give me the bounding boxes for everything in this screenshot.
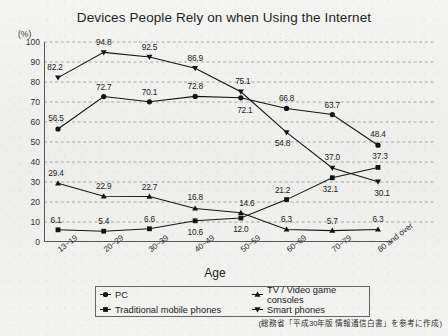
source-attribution: (総務省「平成30年版 情報通信白書」を参考に作成) bbox=[258, 317, 442, 328]
circle-marker-icon bbox=[100, 290, 111, 299]
chart-title: Devices People Rely on when Using the In… bbox=[0, 10, 448, 25]
legend-item-2[interactable]: Traditional mobile phones bbox=[100, 302, 252, 317]
y-tick-50: 50 bbox=[14, 137, 40, 147]
legend-item-1[interactable]: TV / Video game consoles bbox=[252, 287, 375, 302]
y-tick-90: 90 bbox=[14, 57, 40, 67]
y-tick-10: 10 bbox=[14, 217, 40, 227]
chart-legend: PCTV / Video game consolesTraditional mo… bbox=[95, 286, 370, 317]
axis-frame bbox=[44, 42, 392, 242]
legend-label-0: PC bbox=[115, 290, 128, 300]
y-tick-100: 100 bbox=[14, 37, 40, 47]
square-marker-icon bbox=[100, 305, 111, 314]
legend-item-3[interactable]: Smart phones bbox=[252, 302, 375, 317]
legend-item-0[interactable]: PC bbox=[100, 287, 252, 302]
inverted-triangle-marker-icon bbox=[252, 305, 263, 314]
y-tick-20: 20 bbox=[14, 197, 40, 207]
x-axis-title: Age bbox=[0, 266, 430, 280]
y-tick-80: 80 bbox=[14, 77, 40, 87]
y-tick-40: 40 bbox=[14, 157, 40, 167]
y-tick-0: 0 bbox=[14, 237, 40, 247]
triangle-marker-icon bbox=[252, 290, 263, 299]
y-axis-tick-labels: 0102030405060708090100 bbox=[12, 42, 40, 242]
legend-label-3: Smart phones bbox=[267, 305, 325, 315]
legend-label-2: Traditional mobile phones bbox=[115, 305, 221, 315]
y-tick-70: 70 bbox=[14, 97, 40, 107]
y-tick-60: 60 bbox=[14, 117, 40, 127]
y-tick-30: 30 bbox=[14, 177, 40, 187]
